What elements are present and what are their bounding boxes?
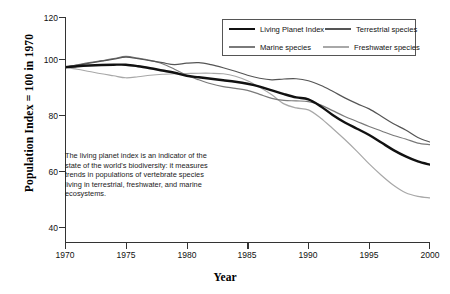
x-axis-title: Year — [0, 271, 450, 283]
chart-figure: Population Index = 100 in 1970 Year 120 … — [0, 0, 450, 294]
y-tick-label: 100 — [24, 55, 58, 65]
legend-label: Living Planet Index — [260, 25, 324, 34]
y-tick-label: 40 — [24, 223, 58, 233]
legend-item-freshwater-species: Freshwater species — [321, 38, 415, 56]
legend-swatch-line-icon — [323, 46, 349, 47]
legend-swatch-line-icon — [325, 28, 351, 29]
x-tick-label: 1975 — [106, 250, 146, 260]
x-tick-label: 1995 — [349, 250, 389, 260]
legend-swatch-line-icon — [229, 46, 255, 47]
legend-label: Terrestrial species — [356, 25, 417, 34]
legend-row: Living Planet Index Terrestrial species — [223, 20, 415, 38]
legend: Living Planet Index Terrestrial species … — [222, 19, 416, 56]
legend-item-marine-species: Marine species — [223, 38, 321, 56]
legend-row: Marine species Freshwater species — [223, 38, 415, 56]
y-tick-label: 80 — [24, 111, 58, 121]
annotation-text: The living planet index is an indicator … — [65, 151, 215, 199]
x-tick-label: 1970 — [45, 250, 85, 260]
legend-swatch-line-icon — [229, 28, 255, 31]
legend-label: Freshwater species — [354, 43, 420, 52]
x-tick-label: 1990 — [288, 250, 328, 260]
x-tick-label: 2000 — [410, 250, 450, 260]
series-line — [65, 65, 430, 165]
y-tick-label: 60 — [24, 167, 58, 177]
series-line — [65, 56, 430, 144]
x-tick-label: 1985 — [227, 250, 267, 260]
legend-item-terrestrial-species: Terrestrial species — [323, 20, 417, 38]
legend-label: Marine species — [260, 43, 311, 52]
y-tick-label: 120 — [24, 13, 58, 23]
x-tick-label: 1980 — [167, 250, 207, 260]
legend-item-living-planet-index: Living Planet Index — [223, 20, 323, 38]
